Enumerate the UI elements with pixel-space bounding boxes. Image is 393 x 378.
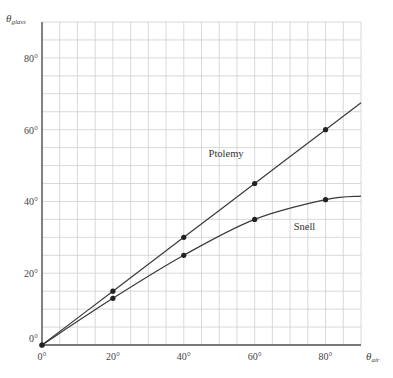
series-label-ptolemy: Ptolemy	[209, 148, 245, 159]
data-point-marker	[110, 296, 115, 301]
data-point-marker	[323, 197, 328, 202]
x-axis-label: θair	[366, 350, 380, 364]
x-tick-label: 40°	[177, 351, 191, 362]
y-tick-label: 20°	[24, 268, 38, 279]
grid-lines	[42, 22, 361, 345]
x-tick-label: 0°	[38, 351, 47, 362]
tick-labels: 0°20°40°60°80°0°20°40°60°80°	[24, 53, 333, 362]
x-tick-label: 80°	[319, 351, 333, 362]
y-axis-label-subscript: glass	[11, 18, 26, 26]
data-point-marker	[252, 181, 257, 186]
y-tick-label: 60°	[24, 125, 38, 136]
x-axis-label-subscript: air	[371, 356, 379, 364]
y-tick-label: 80°	[24, 53, 38, 64]
x-tick-label: 60°	[248, 351, 262, 362]
data-point-marker	[181, 235, 186, 240]
data-point-marker	[323, 127, 328, 132]
y-tick-label: 40°	[24, 196, 38, 207]
data-point-marker	[252, 217, 257, 222]
chart: 0°20°40°60°80°0°20°40°60°80° PtolemySnel…	[0, 0, 393, 378]
series-label-snell: Snell	[294, 221, 316, 232]
y-axis-label: θglass	[6, 12, 26, 26]
y-tick-label: 0°	[29, 333, 38, 344]
data-point-marker	[110, 289, 115, 294]
x-tick-label: 20°	[106, 351, 120, 362]
data-point-marker	[39, 342, 44, 347]
data-point-marker	[181, 253, 186, 258]
